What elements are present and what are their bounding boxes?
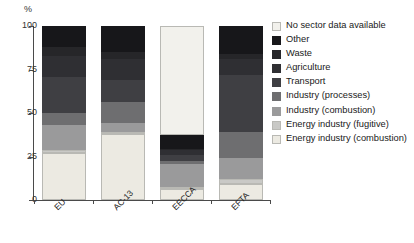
legend-item-label: Industry (processes) [286,90,370,102]
bar-segment [101,80,145,103]
legend-swatch-icon [272,135,281,144]
bar-segment [160,26,204,135]
legend-item[interactable]: No sector data available [272,20,412,32]
bar-segment [42,47,86,56]
bar-ac-13[interactable] [101,26,145,200]
legend-swatch-icon [272,121,281,130]
bar-segment [42,77,86,114]
x-tick-mark [270,200,271,204]
legend-item[interactable]: Other [272,34,412,46]
legend-item-label: Agriculture [286,62,330,74]
legend-item[interactable]: Industry (combustion) [272,105,412,117]
legend-item-label: No sector data available [286,20,386,32]
x-tick-mark [211,200,212,204]
x-tick-mark [93,200,94,204]
bar-segment [219,158,263,179]
chart-legend: No sector data availableOtherWasteAgricu… [272,20,412,147]
legend-item-label: Industry (combustion) [286,105,375,117]
bar-segment [42,26,86,47]
bar-segment [42,56,86,77]
x-tick-mark [152,200,153,204]
legend-swatch-icon [272,64,281,73]
bar-segment [219,75,263,132]
legend-item-label: Waste [286,48,312,60]
bar-segment [101,102,145,123]
bar-eecca[interactable] [160,26,204,200]
y-tick-mark [29,70,33,71]
legend-item[interactable]: Agriculture [272,62,412,74]
legend-item[interactable]: Transport [272,76,412,88]
bar-segment [160,164,204,187]
y-axis-unit-label: % [24,4,32,14]
bar-segment [219,26,263,54]
stacked-bar-chart: % 1007550250 EUAC-13EECCAEFTA No sector … [0,0,414,243]
y-tick-mark [29,200,33,201]
legend-item-label: Transport [286,76,325,88]
legend-swatch-icon [272,36,281,45]
bar-segment [42,153,86,200]
bar-segment [101,59,145,80]
legend-swatch-icon [272,50,281,59]
bar-eu[interactable] [42,26,86,200]
x-tick-mark [34,200,35,204]
bar-segment [101,134,145,200]
bar-segment [101,123,145,132]
legend-item[interactable]: Energy industry (fugitive) [272,119,412,131]
legend-item-label: Energy industry (combustion) [286,133,407,145]
legend-item[interactable]: Industry (processes) [272,90,412,102]
y-tick-mark [29,157,33,158]
bar-segment [42,113,86,125]
legend-swatch-icon [272,107,281,116]
bar-segment [101,26,145,52]
legend-item[interactable]: Energy industry (combustion) [272,133,412,145]
bar-segment [219,132,263,158]
legend-item-label: Energy industry (fugitive) [286,119,389,131]
legend-item-label: Other [286,34,309,46]
y-tick-mark [29,113,33,114]
y-tick-mark [29,26,33,27]
bar-segment [42,125,86,149]
legend-swatch-icon [272,78,281,87]
bar-efta[interactable] [219,26,263,200]
bar-segment [160,135,204,149]
legend-swatch-icon [272,22,281,31]
legend-swatch-icon [272,92,281,101]
plot-area [34,26,270,200]
bar-segment [101,52,145,59]
legend-item[interactable]: Waste [272,48,412,60]
bar-segment [219,59,263,75]
